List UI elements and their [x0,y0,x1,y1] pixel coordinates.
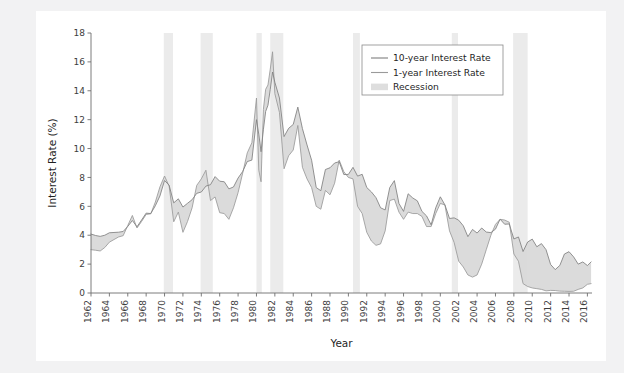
x-tick-label: 1970 [157,300,167,323]
y-tick-label: 6 [79,202,85,212]
figure-panel: 024681012141618 196219641966196819701972… [36,11,606,361]
x-tick-label: 1982 [267,300,277,323]
x-tick-label: 1986 [304,300,314,323]
chart-legend[interactable]: 10-year Interest Rate1-year Interest Rat… [362,45,503,95]
x-axis: 1962196419661968197019721974197619781980… [83,293,592,323]
x-tick-label: 1988 [322,300,332,323]
legend-label: 1-year Interest Rate [393,67,485,78]
x-tick-label: 1996 [396,300,406,323]
y-tick-label: 8 [79,173,85,183]
x-tick-label: 2016 [579,300,589,323]
y-tick-label: 16 [74,57,86,67]
x-tick-label: 1980 [248,300,258,323]
x-tick-label: 1994 [377,300,387,323]
x-tick-label: 1998 [414,300,424,323]
y-tick-label: 4 [79,230,85,240]
x-tick-label: 1974 [193,300,203,323]
x-tick-label: 1990 [340,300,350,323]
y-tick-label: 12 [74,115,85,125]
x-tick-label: 1978 [230,300,240,323]
y-axis: 024681012141618 [74,28,91,298]
x-axis-title: Year [329,337,353,349]
recession-band [353,33,360,293]
x-tick-label: 2008 [506,300,516,323]
x-tick-label: 1968 [138,300,148,323]
recession-band [201,33,213,293]
y-tick-label: 14 [74,86,86,96]
interest-rate-chart: 024681012141618 196219641966196819701972… [36,11,606,361]
x-tick-label: 1976 [212,300,222,323]
y-tick-label: 2 [79,259,85,269]
x-tick-label: 2002 [451,300,461,323]
recession-band [164,33,173,293]
y-tick-label: 10 [74,144,86,154]
chart-page: 024681012141618 196219641966196819701972… [0,0,624,373]
x-tick-label: 2004 [469,300,479,323]
x-tick-label: 2006 [487,300,497,323]
legend-patch-swatch [371,84,388,91]
x-tick-label: 2014 [561,300,571,323]
x-tick-label: 2000 [432,300,442,323]
y-tick-label: 0 [79,288,85,298]
y-axis-title: Interest Rate (%) [46,118,58,207]
x-tick-label: 2010 [524,300,534,323]
x-tick-label: 1962 [83,300,93,323]
y-tick-label: 18 [74,28,86,38]
x-tick-label: 1984 [285,300,295,323]
x-tick-label: 1964 [101,300,111,323]
x-tick-label: 2012 [543,300,553,323]
legend-label: Recession [393,81,439,92]
x-tick-label: 1966 [120,300,130,323]
legend-label: 10-year Interest Rate [393,52,491,63]
x-tick-label: 1972 [175,300,185,323]
page-top-strip [0,0,624,11]
x-tick-label: 1992 [359,300,369,323]
